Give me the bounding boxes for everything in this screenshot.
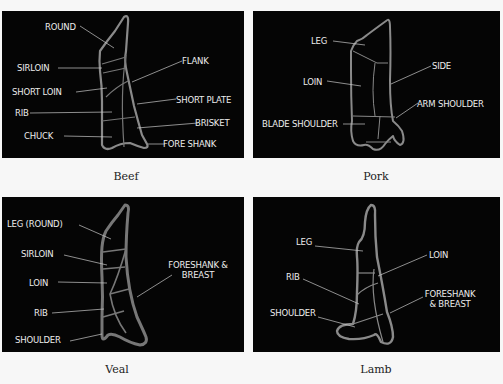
pork-label-leg: LEG [311,36,327,46]
lamb-diagram: LEG RIB SHOULDER LOIN FORESHANK & BREAST [253,197,500,352]
beef-label-rib: RIB [15,108,29,118]
veal-caption: Veal [57,363,177,376]
beef-label-flank: FLANK [182,56,209,66]
pork-label-side: SIDE [432,61,451,71]
beef-diagram: ROUND SIRLOIN SHORT LOIN RIB CHUCK FLANK… [2,11,244,158]
pork-label-arm-shoulder: ARM SHOULDER [417,99,484,109]
veal-label-foreshank-line2: BREAST [165,270,231,280]
beef-label-fore-shank: FORE SHANK [163,139,216,149]
lamb-label-rib: RIB [286,272,300,282]
lamb-label-shoulder: SHOULDER [270,308,316,318]
beef-label-short-loin: SHORT LOIN [12,87,62,97]
veal-label-foreshank-breast: FORESHANK & BREAST [165,260,231,280]
pork-diagram: LEG LOIN BLADE SHOULDER SIDE ARM SHOULDE… [253,11,500,158]
lamb-label-foreshank-breast: FORESHANK & BREAST [418,289,482,309]
lamb-caption: Lamb [316,363,436,376]
veal-label-sirloin: SIRLOIN [21,249,53,259]
pork-label-blade-shoulder: BLADE SHOULDER [262,119,338,129]
beef-label-short-plate: SHORT PLATE [176,95,231,105]
lamb-label-foreshank-line2: & BREAST [418,299,482,309]
lamb-label-loin: LOIN [429,250,448,260]
veal-label-loin: LOIN [29,278,48,288]
veal-label-rib: RIB [34,308,48,318]
veal-label-leg-round: LEG (ROUND) [7,219,63,229]
veal-diagram: LEG (ROUND) SIRLOIN LOIN RIB SHOULDER FO… [2,197,244,352]
pork-label-loin: LOIN [303,77,322,87]
pork-outline-icon [253,11,500,158]
beef-label-brisket: BRISKET [195,118,229,128]
beef-label-chuck: CHUCK [24,131,53,141]
lamb-label-leg: LEG [296,237,312,247]
lamb-label-foreshank-line1: FORESHANK [418,289,482,299]
pork-caption: Pork [316,170,436,183]
beef-label-sirloin: SIRLOIN [17,63,49,73]
veal-label-foreshank-line1: FORESHANK & [165,260,231,270]
veal-label-shoulder: SHOULDER [15,335,61,345]
beef-label-round: ROUND [45,22,76,32]
beef-caption: Beef [66,170,186,183]
